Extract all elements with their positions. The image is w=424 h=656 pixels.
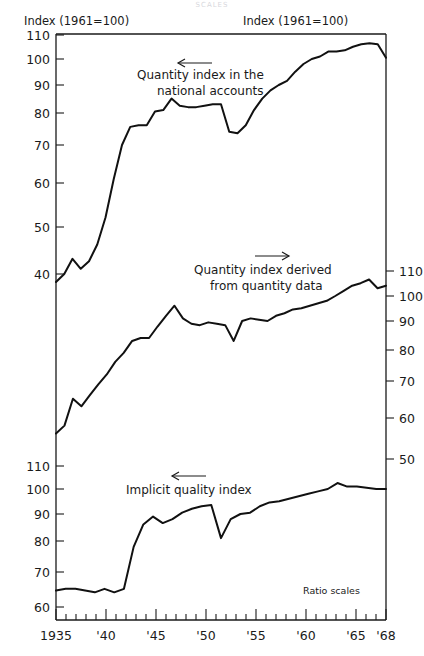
series-quantity-index-derived-from-quantity-data — [56, 279, 386, 433]
left-axis-title: Index (1961=100) — [24, 14, 129, 28]
chart-page: SCALES Index (1961=100) Index (1961=100)… — [0, 0, 424, 656]
x-tick-label: '45 — [146, 628, 165, 643]
y-tick-label: 50 — [34, 220, 50, 235]
annotation-middle-line-2: from quantity data — [210, 279, 323, 293]
annotation-top: Quantity index in the national accounts — [137, 59, 264, 98]
y-tick-label: 70 — [34, 565, 50, 580]
y-tick-label: 40 — [34, 267, 50, 282]
right-axis-title: Index (1961=100) — [243, 14, 348, 28]
annotation-middle: Quantity index derived from quantity dat… — [194, 252, 332, 293]
y-tick-label: 50 — [399, 452, 415, 467]
y-tick-label: 100 — [26, 482, 50, 497]
x-tick-label: '68 — [376, 628, 395, 643]
annotation-bottom: Implicit quality index — [126, 472, 252, 497]
x-tick-label: '65 — [346, 628, 365, 643]
y-tick-label: 90 — [34, 78, 50, 93]
series-implicit-quality-index — [56, 483, 386, 592]
annotation-top-line-2: national accounts — [157, 84, 264, 98]
axis-tick-labels: 1101009080706050401101009080706050110100… — [26, 28, 423, 644]
x-tick-label: '40 — [96, 628, 115, 643]
data-series-group — [56, 43, 386, 592]
x-tick-label: '55 — [246, 628, 265, 643]
y-tick-label: 110 — [26, 459, 50, 474]
y-tick-label: 70 — [34, 138, 50, 153]
faint-page-header: SCALES — [0, 1, 424, 9]
y-tick-label: 60 — [34, 600, 50, 615]
y-tick-label: 110 — [26, 28, 50, 43]
y-tick-label: 70 — [399, 374, 415, 389]
y-tick-label: 90 — [399, 314, 415, 329]
index-chart-figure: Index (1961=100) Index (1961=100) 110100… — [0, 0, 424, 656]
y-tick-label: 60 — [34, 176, 50, 191]
y-tick-label: 90 — [34, 507, 50, 522]
annotation-middle-line-1: Quantity index derived — [194, 263, 332, 277]
y-tick-label: 60 — [399, 411, 415, 426]
x-tick-label: '60 — [296, 628, 315, 643]
y-tick-label: 80 — [34, 106, 50, 121]
y-tick-label: 100 — [399, 289, 423, 304]
x-tick-label: 1935 — [40, 628, 72, 643]
x-tick-label: '50 — [196, 628, 215, 643]
annotation-top-line-1: Quantity index in the — [137, 68, 264, 82]
y-tick-label: 100 — [26, 52, 50, 67]
y-tick-label: 80 — [34, 534, 50, 549]
plot-frame — [56, 34, 386, 620]
y-tick-label: 80 — [399, 343, 415, 358]
y-tick-label: 110 — [399, 264, 423, 279]
annotation-bottom-line-1: Implicit quality index — [126, 483, 252, 497]
ratio-scales-note: Ratio scales — [303, 585, 360, 596]
